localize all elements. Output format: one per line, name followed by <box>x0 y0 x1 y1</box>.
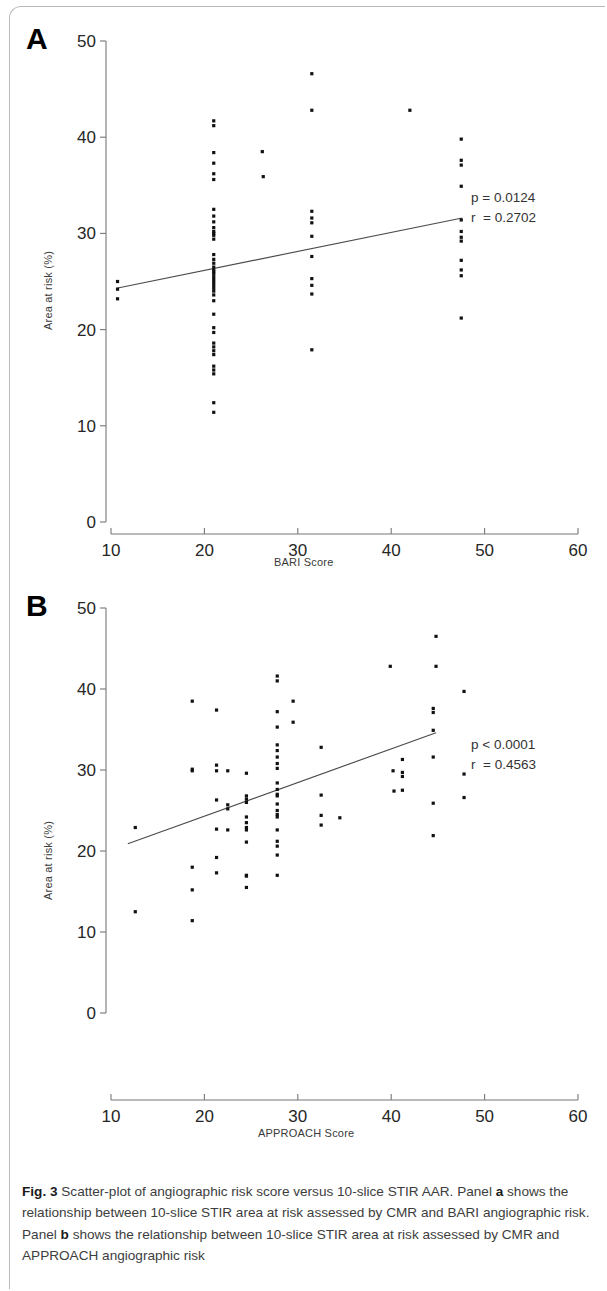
data-point <box>134 826 137 829</box>
data-point <box>212 265 215 268</box>
panel-b-plot: 01020304050102030405060 <box>0 575 607 1150</box>
data-point <box>134 910 137 913</box>
data-point <box>212 172 215 175</box>
data-point <box>245 840 248 843</box>
data-point <box>215 871 218 874</box>
figure-caption-panel-b-ref: b <box>61 1227 69 1242</box>
panel-b-x-axis-title: APPROACH Score <box>258 1127 354 1139</box>
x-tick-label: 20 <box>195 541 214 560</box>
data-point <box>212 262 215 265</box>
panel-a-p-value: p = 0.0124 <box>471 190 535 205</box>
data-point <box>212 253 215 256</box>
data-point <box>215 769 218 772</box>
regression-line <box>117 218 463 288</box>
data-point <box>116 288 119 291</box>
data-point <box>391 769 394 772</box>
data-point <box>276 679 279 682</box>
data-point <box>212 278 215 281</box>
data-point <box>434 635 437 638</box>
data-point <box>245 772 248 775</box>
data-point <box>310 284 313 287</box>
y-tick-label: 30 <box>77 761 96 780</box>
data-point <box>460 230 463 233</box>
x-tick-label: 30 <box>288 1107 307 1126</box>
panel-a-plot: 01020304050102030405060 <box>0 0 607 580</box>
data-point <box>460 316 463 319</box>
y-tick-label: 20 <box>77 321 96 340</box>
data-point <box>212 401 215 404</box>
panel-a-y-axis-title: Area at risk (%) <box>42 251 54 330</box>
data-point <box>245 828 248 831</box>
x-tick-label: 60 <box>569 541 588 560</box>
data-point <box>310 216 313 219</box>
data-point <box>215 708 218 711</box>
data-point <box>245 886 248 889</box>
data-point <box>212 368 215 371</box>
data-point <box>276 749 279 752</box>
data-point <box>212 326 215 329</box>
data-point <box>245 794 248 797</box>
data-point <box>392 789 395 792</box>
data-point <box>408 109 411 112</box>
y-tick-label: 0 <box>87 1004 96 1023</box>
panel-b-stats: p < 0.0001r = 0.4563 <box>471 735 536 774</box>
data-point <box>310 109 313 112</box>
data-point <box>212 124 215 127</box>
data-point <box>432 755 435 758</box>
data-point <box>212 258 215 261</box>
data-point <box>215 828 218 831</box>
data-point <box>116 280 119 283</box>
data-point <box>460 239 463 242</box>
data-point <box>310 348 313 351</box>
data-point <box>460 138 463 141</box>
data-point <box>432 711 435 714</box>
data-point <box>212 226 215 229</box>
y-tick-label: 50 <box>77 599 96 618</box>
x-tick-label: 50 <box>475 1107 494 1126</box>
data-point <box>276 874 279 877</box>
data-point <box>215 856 218 859</box>
data-point <box>191 888 194 891</box>
data-point <box>212 119 215 122</box>
data-point <box>310 277 313 280</box>
panel-b-p-value: p < 0.0001 <box>471 737 535 752</box>
y-tick-label: 50 <box>77 32 96 51</box>
regression-line <box>128 733 436 844</box>
data-point <box>191 919 194 922</box>
data-point <box>226 769 229 772</box>
x-tick-label: 10 <box>102 541 121 560</box>
data-point <box>212 178 215 181</box>
data-point <box>462 690 465 693</box>
y-tick-label: 20 <box>77 842 96 861</box>
data-point <box>276 788 279 791</box>
data-point <box>212 290 215 293</box>
data-point <box>215 798 218 801</box>
data-point <box>191 769 194 772</box>
data-point <box>212 365 215 368</box>
panel-b-y-axis-title: Area at risk (%) <box>42 821 54 900</box>
data-point <box>401 771 404 774</box>
data-point <box>310 235 313 238</box>
data-point <box>276 710 279 713</box>
data-point <box>292 700 295 703</box>
panel-a-r-value: r = 0.2702 <box>471 210 536 225</box>
data-point <box>212 238 215 241</box>
y-tick-label: 30 <box>77 224 96 243</box>
figure-caption-label: Fig. 3 <box>22 1184 58 1199</box>
data-point <box>212 272 215 275</box>
data-point <box>215 764 218 767</box>
data-point <box>460 236 463 239</box>
data-point <box>389 665 392 668</box>
data-point <box>310 255 313 258</box>
data-point <box>460 268 463 271</box>
data-point <box>212 162 215 165</box>
data-point <box>432 729 435 732</box>
data-point <box>310 221 313 224</box>
data-point <box>276 725 279 728</box>
data-point <box>226 807 229 810</box>
data-point <box>292 721 295 724</box>
y-tick-label: 10 <box>77 417 96 436</box>
x-tick-label: 10 <box>102 1107 121 1126</box>
data-point <box>276 762 279 765</box>
data-point <box>401 758 404 761</box>
